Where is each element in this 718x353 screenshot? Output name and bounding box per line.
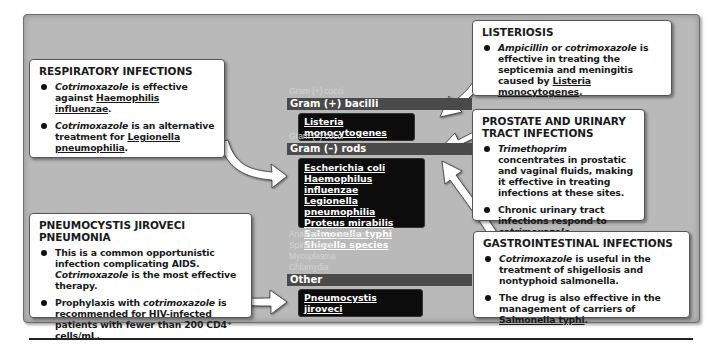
bullet-list: Cotrimoxazole is effective against Haemo… bbox=[39, 81, 215, 153]
bottom-rule bbox=[29, 338, 693, 340]
callout-title: LISTERIOSIS bbox=[482, 26, 662, 38]
bullet-item: This is a common opportunistic infection… bbox=[39, 247, 242, 291]
bullet-list: Ampicillin or cotrimoxazole is effective… bbox=[482, 42, 662, 97]
label-gram-pos-cocci: Gram (+) cocci bbox=[289, 86, 344, 96]
callout-prostate-urinary-infections: PROSTATE AND URINARY TRACT INFECTIONS Tr… bbox=[472, 109, 645, 221]
header-other: Other bbox=[287, 274, 472, 286]
bullet-item: The drug is also effective in the manage… bbox=[483, 292, 680, 325]
callout-title: PROSTATE AND URINARY TRACT INFECTIONS bbox=[482, 115, 635, 139]
callout-title: PNEUMOCYSTIS JIROVECI PNEUMONIA bbox=[39, 219, 242, 243]
callout-title: RESPIRATORY INFECTIONS bbox=[39, 65, 215, 77]
callout-respiratory-infections: RESPIRATORY INFECTIONS Cotrimoxazole is … bbox=[29, 59, 225, 158]
organism-legionella-pneumophilia: Legionella pneumophilia bbox=[304, 195, 419, 217]
label-gram-neg-cocci: Gram (–) cocci bbox=[289, 131, 343, 141]
label-mycoplasma: Mycoplasma bbox=[289, 251, 336, 261]
bullet-item: Prophylaxis with cotrimoxazole is recomm… bbox=[39, 297, 242, 341]
bullet-item: Cotrimoxazole is useful in the treatment… bbox=[483, 253, 680, 286]
organism-escherichia-coli: Escherichia coli bbox=[304, 162, 419, 173]
bullet-list: Trimethoprim concentrates in prostatic a… bbox=[482, 143, 635, 237]
bullet-list: Cotrimoxazole is useful in the treatment… bbox=[483, 253, 680, 325]
organism-pneumocystis-jiroveci: Pneumocystis jiroveci bbox=[304, 292, 417, 314]
callout-title: GASTROINTESTINAL INFECTIONS bbox=[483, 237, 680, 249]
organism-haemophilus-influenzae: Haemophilus influenzae bbox=[304, 173, 419, 195]
bullet-item: Ampicillin or cotrimoxazole is effective… bbox=[482, 42, 662, 97]
label-spirochetes: Spirochetes bbox=[289, 240, 333, 250]
label-chlamydia: Chlamydia bbox=[289, 262, 328, 272]
arrow-respiratory bbox=[220, 140, 287, 188]
header-gram-pos-bacilli: Gram (+) bacilli bbox=[287, 98, 472, 110]
header-gram-neg-rods: Gram (–) rods bbox=[287, 143, 472, 155]
callout-listeriosis: LISTERIOSIS Ampicillin or cotrimoxazole … bbox=[472, 20, 672, 96]
bullet-item: Cotrimoxazole is an alternative treatmen… bbox=[39, 120, 215, 153]
organism-proteus-mirabilis: Proteus mirabilis bbox=[304, 217, 419, 228]
callout-gastrointestinal-infections: GASTROINTESTINAL INFECTIONS Cotrimoxazol… bbox=[473, 231, 690, 318]
label-anaerobic-organisms: Anaerobic organisms bbox=[289, 229, 367, 239]
bullet-list: This is a common opportunistic infection… bbox=[39, 247, 242, 341]
organism-box-other: Pneumocystis jiroveci bbox=[298, 289, 423, 317]
organism-box-gram-neg-rods: Escherichia coli Haemophilus influenzae … bbox=[298, 158, 425, 228]
callout-pneumocystis-pneumonia: PNEUMOCYSTIS JIROVECI PNEUMONIA This is … bbox=[29, 213, 252, 318]
bullet-item: Trimethoprim concentrates in prostatic a… bbox=[482, 143, 635, 198]
bullet-item: Cotrimoxazole is effective against Haemo… bbox=[39, 81, 215, 114]
